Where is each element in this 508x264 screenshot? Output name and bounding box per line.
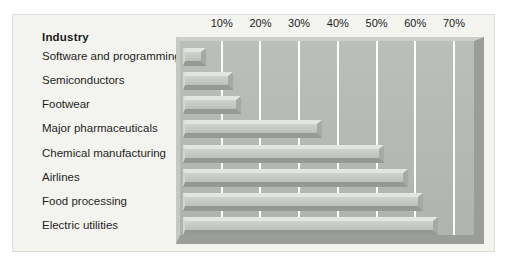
bar-airlines [183, 169, 408, 187]
chart-panel: Industry Software and programmingSemicon… [12, 14, 495, 252]
bar-footwear [183, 96, 241, 114]
bar-semiconductors [183, 72, 233, 90]
bar-software-and-programming [183, 48, 206, 66]
category-label: Footwear [42, 98, 90, 112]
gridline [453, 41, 455, 235]
category-label: Food processing [42, 195, 127, 209]
bar-chemical-manufacturing [183, 145, 384, 163]
axis-tick-label: 70% [429, 17, 479, 29]
bar-electric-utilities [183, 217, 438, 235]
category-axis-title: Industry [42, 31, 89, 43]
category-label: Software and programming [42, 50, 181, 64]
category-label: Electric utilities [42, 219, 118, 233]
category-label: Semiconductors [42, 74, 124, 88]
bar-food-processing [183, 193, 423, 211]
category-label: Airlines [42, 171, 80, 185]
category-label: Major pharmaceuticals [42, 122, 158, 136]
plot-content [180, 41, 474, 235]
figure: Industry Software and programmingSemicon… [0, 0, 508, 264]
bar-major-pharmaceuticals [183, 120, 322, 138]
plot-area [176, 37, 484, 244]
category-label: Chemical manufacturing [42, 147, 166, 161]
